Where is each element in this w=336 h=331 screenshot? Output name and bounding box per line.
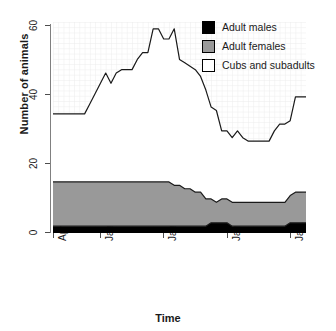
x-tick-mark-4 bbox=[290, 233, 291, 238]
y-tick-label-40: 40 bbox=[28, 84, 39, 106]
legend-item-cubs-and-subadults: Cubs and subadults bbox=[202, 56, 334, 75]
legend-label-adult-females: Adult females bbox=[222, 41, 286, 52]
x-tick-mark-0 bbox=[53, 233, 54, 238]
legend-swatch-adult-males-icon bbox=[202, 21, 215, 34]
y-tick-label-20: 20 bbox=[28, 153, 39, 175]
x-tick-mark-1 bbox=[100, 233, 101, 238]
legend-swatch-cubs-and-subadults-icon bbox=[202, 59, 215, 72]
y-tick-label-0: 0 bbox=[28, 222, 39, 244]
x-tick-mark-2 bbox=[163, 233, 164, 238]
chart-legend: Adult males Adult females Cubs and subad… bbox=[202, 18, 334, 75]
y-tick-mark-20 bbox=[45, 163, 50, 164]
y-tick-label-60: 60 bbox=[28, 15, 39, 37]
y-tick-mark-40 bbox=[45, 94, 50, 95]
legend-item-adult-males: Adult males bbox=[202, 18, 334, 37]
y-axis-line bbox=[50, 24, 51, 233]
animal-population-chart: Number of animals Time 0 20 40 60 April … bbox=[0, 0, 336, 331]
x-tick-mark-3 bbox=[227, 233, 228, 238]
legend-swatch-adult-females-icon bbox=[202, 40, 215, 53]
legend-label-adult-males: Adult males bbox=[222, 22, 277, 33]
legend-label-cubs-and-subadults: Cubs and subadults bbox=[222, 60, 315, 71]
y-tick-mark-60 bbox=[45, 25, 50, 26]
x-axis-title: Time bbox=[0, 312, 336, 324]
legend-item-adult-females: Adult females bbox=[202, 37, 334, 56]
y-tick-mark-0 bbox=[45, 232, 50, 233]
